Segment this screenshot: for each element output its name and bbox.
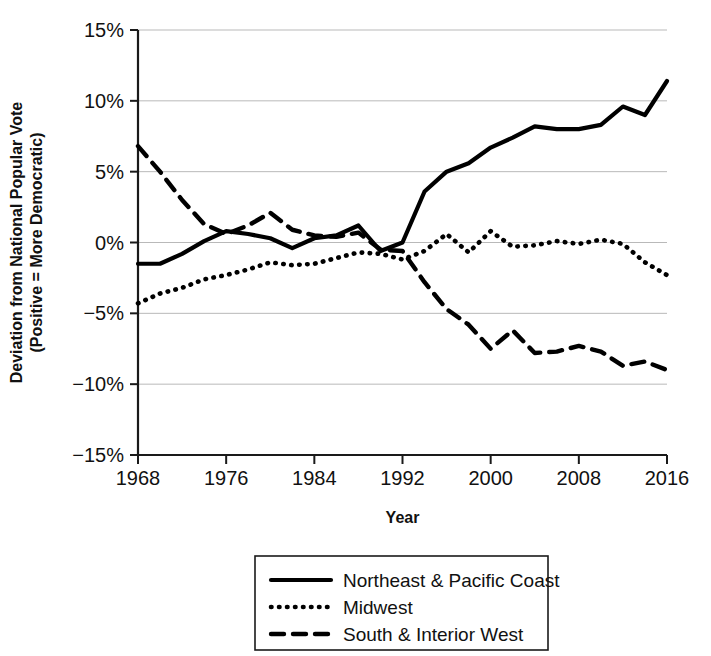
x-tick-label: 1976 [204, 467, 249, 489]
y-tick-label: 0% [95, 232, 124, 254]
x-tick-label: 1968 [116, 467, 161, 489]
y-axis-ticks: 15%10%5%0%−5%−10%−15% [72, 19, 138, 466]
series-line-northeast-pacific-coast [138, 81, 667, 264]
x-tick-label: 2008 [557, 467, 602, 489]
legend: Northeast & Pacific CoastMidwestSouth & … [255, 556, 560, 650]
deviation-line-chart: 15%10%5%0%−5%−10%−15%1968197619841992200… [0, 0, 711, 656]
gridlines [138, 30, 667, 384]
legend-label: Northeast & Pacific Coast [343, 570, 560, 591]
x-axis-title: Year [386, 509, 420, 526]
x-tick-label: 2000 [468, 467, 513, 489]
x-tick-label: 1992 [380, 467, 425, 489]
y-tick-label: −5% [83, 302, 124, 324]
y-tick-label: 15% [84, 19, 124, 41]
x-axis-ticks: 1968197619841992200020082016 [116, 455, 690, 489]
y-axis-title: Deviation from National Popular Vote(Pos… [8, 102, 45, 384]
x-tick-label: 1984 [292, 467, 337, 489]
legend-label: South & Interior West [343, 624, 524, 645]
y-tick-label: 10% [84, 90, 124, 112]
chart-container: 15%10%5%0%−5%−10%−15%1968197619841992200… [0, 0, 711, 656]
y-tick-label: −10% [72, 373, 124, 395]
y-tick-label: 5% [95, 161, 124, 183]
y-axis-title-line1: Deviation from National Popular Vote [8, 102, 25, 384]
y-axis-title-line2: (Positive = More Democratic) [28, 132, 45, 352]
x-tick-label: 2016 [645, 467, 690, 489]
y-tick-label: −15% [72, 444, 124, 466]
legend-label: Midwest [343, 597, 413, 618]
series-group [138, 81, 667, 370]
